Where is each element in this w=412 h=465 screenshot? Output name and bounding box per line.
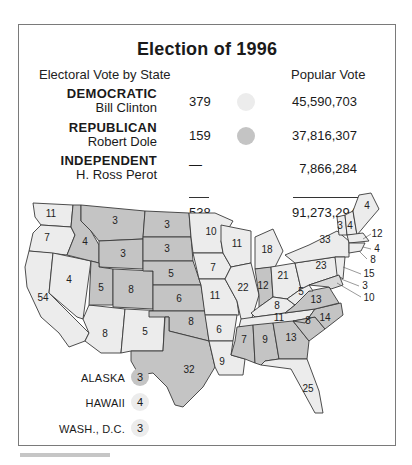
- popular-votes: 7,866,284: [299, 161, 357, 176]
- republican-swatch-icon: [237, 127, 255, 145]
- svg-text:4: 4: [82, 236, 88, 247]
- svg-text:3: 3: [120, 248, 126, 259]
- svg-text:8: 8: [102, 328, 108, 339]
- svg-text:5: 5: [168, 268, 174, 279]
- election-map-panel: Election of 1996 Electoral Vote by State…: [18, 24, 396, 446]
- svg-text:13: 13: [310, 294, 322, 305]
- svg-text:13: 13: [285, 332, 297, 343]
- svg-text:54: 54: [37, 292, 49, 303]
- extra-label: WASH., D.C.: [59, 423, 125, 435]
- extra-label: ALASKA: [81, 372, 125, 384]
- svg-text:11: 11: [232, 238, 243, 249]
- svg-text:32: 32: [183, 364, 195, 375]
- svg-text:3: 3: [164, 243, 170, 254]
- chart-title: Election of 1996: [19, 39, 395, 60]
- svg-text:11: 11: [210, 290, 221, 301]
- party-row-democratic: DEMOCRATIC Bill Clinton 379 45,590,703: [19, 86, 395, 120]
- svg-text:14: 14: [319, 312, 331, 323]
- svg-text:10: 10: [205, 226, 217, 237]
- svg-text:8: 8: [274, 300, 280, 311]
- svg-text:4: 4: [66, 274, 72, 285]
- state-fl: [261, 359, 323, 413]
- svg-text:4: 4: [364, 200, 370, 211]
- svg-text:7: 7: [44, 232, 50, 243]
- extra-hawaii: HAWAII 4: [49, 393, 149, 413]
- democratic-swatch-icon: [237, 93, 255, 111]
- svg-text:10: 10: [363, 292, 375, 303]
- svg-text:23: 23: [315, 260, 327, 271]
- scan-artifact-bar: [20, 453, 110, 457]
- popular-votes: 45,590,703: [292, 94, 357, 109]
- svg-text:9: 9: [219, 356, 225, 367]
- svg-text:33: 33: [319, 234, 331, 245]
- svg-text:4: 4: [347, 220, 353, 231]
- svg-text:8: 8: [128, 284, 134, 295]
- svg-text:12: 12: [257, 280, 269, 291]
- svg-text:3: 3: [112, 215, 118, 226]
- popular-vote-header: Popular Vote: [291, 67, 365, 82]
- svg-text:8: 8: [370, 254, 376, 265]
- svg-text:3: 3: [164, 219, 170, 230]
- svg-text:5: 5: [298, 286, 304, 297]
- svg-text:4: 4: [374, 243, 380, 254]
- state-ma: [347, 233, 369, 243]
- candidate-name: Bill Clinton: [96, 100, 157, 115]
- electoral-vote-header: Electoral Vote by State: [39, 67, 171, 82]
- party-name: INDEPENDENT: [61, 153, 157, 168]
- svg-text:11: 11: [46, 208, 57, 219]
- extra-value-badge: 3: [131, 419, 149, 437]
- popular-votes: 37,816,307: [292, 128, 357, 143]
- svg-text:3: 3: [337, 220, 343, 231]
- electoral-votes: 379: [189, 94, 211, 109]
- svg-text:9: 9: [262, 334, 268, 345]
- svg-text:12: 12: [371, 228, 383, 239]
- extra-value-badge: 3: [131, 368, 149, 386]
- svg-text:25: 25: [302, 383, 314, 394]
- electoral-votes: —: [189, 157, 202, 172]
- svg-text:3: 3: [362, 280, 368, 291]
- svg-text:18: 18: [261, 244, 273, 255]
- state-ct-ri: [349, 243, 365, 253]
- svg-text:6: 6: [216, 324, 222, 335]
- electoral-votes: 159: [189, 128, 211, 143]
- svg-text:5: 5: [98, 282, 104, 293]
- svg-text:7: 7: [210, 262, 216, 273]
- party-row-republican: REPUBLICAN Robert Dole 159 37,816,307: [19, 120, 395, 154]
- svg-text:8: 8: [188, 316, 194, 327]
- svg-text:7: 7: [241, 334, 247, 345]
- extra-value-badge: 4: [131, 393, 149, 411]
- svg-text:6: 6: [176, 293, 182, 304]
- party-name: DEMOCRATIC: [67, 86, 157, 101]
- svg-text:5: 5: [142, 326, 148, 337]
- svg-text:21: 21: [277, 270, 289, 281]
- extra-label: HAWAII: [86, 397, 126, 409]
- party-row-independent: INDEPENDENT H. Ross Perot — 7,866,284: [19, 153, 395, 187]
- extra-alaska: ALASKA 3: [49, 368, 149, 388]
- candidate-name: Robert Dole: [88, 134, 157, 149]
- svg-text:8: 8: [305, 315, 311, 326]
- party-name: REPUBLICAN: [69, 120, 157, 135]
- state-or: [29, 225, 75, 255]
- svg-text:22: 22: [237, 282, 249, 293]
- extra-dc: WASH., D.C. 3: [49, 419, 149, 439]
- svg-text:15: 15: [363, 268, 375, 279]
- candidate-name: H. Ross Perot: [76, 167, 157, 182]
- svg-text:11: 11: [274, 312, 285, 323]
